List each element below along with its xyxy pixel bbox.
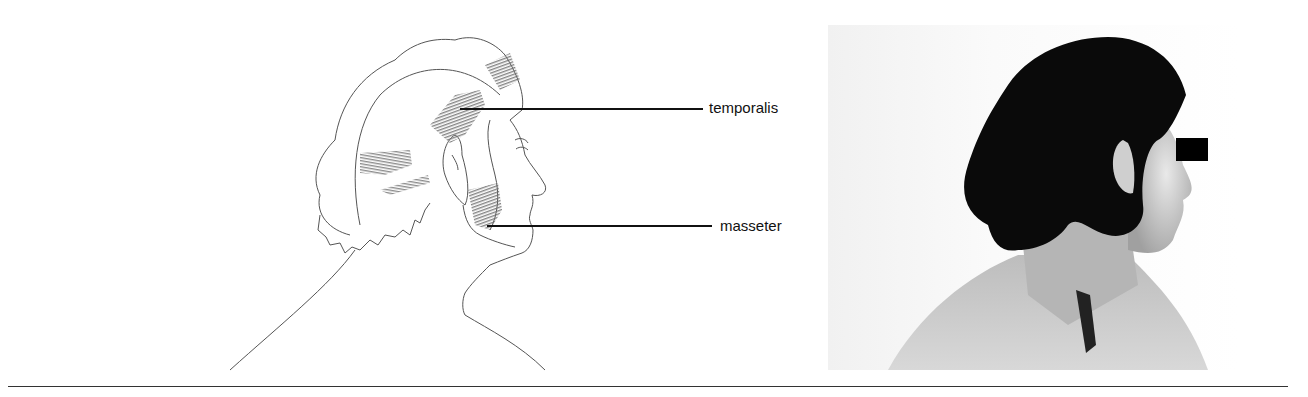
head-drawing-icon bbox=[200, 25, 580, 375]
figure-divider bbox=[8, 386, 1288, 387]
anatomy-figure: temporalis masseter bbox=[0, 0, 1308, 397]
temporalis-label: temporalis bbox=[709, 100, 778, 115]
masseter-leader-line bbox=[487, 225, 712, 227]
head-photo bbox=[828, 25, 1238, 370]
temporalis-leader-line bbox=[460, 108, 703, 110]
head-profile-photo-icon bbox=[828, 25, 1238, 370]
masseter-label: masseter bbox=[720, 218, 782, 233]
